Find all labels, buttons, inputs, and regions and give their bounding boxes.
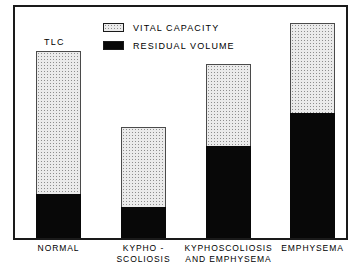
bar-segment-vital-capacity bbox=[206, 64, 251, 146]
category-label-line-1: EMPHYSEMA bbox=[281, 243, 343, 253]
category-label-line-1: KYPHO - bbox=[123, 243, 164, 253]
category-label-line-1: NORMAL bbox=[38, 243, 80, 253]
bar-2 bbox=[121, 127, 166, 238]
category-label-line-2: AND EMPHYSEMA bbox=[169, 254, 289, 265]
lung-volume-bar-chart: VITAL CAPACITY RESIDUAL VOLUME TLC NORMA… bbox=[0, 0, 359, 269]
bar-4 bbox=[290, 23, 335, 238]
category-label-4: EMPHYSEMA bbox=[253, 243, 359, 254]
bars-layer bbox=[15, 7, 346, 238]
bar-3 bbox=[206, 64, 251, 238]
bar-segment-vital-capacity bbox=[36, 51, 81, 194]
bar-segment-vital-capacity bbox=[290, 23, 335, 113]
plot-frame: VITAL CAPACITY RESIDUAL VOLUME TLC bbox=[13, 5, 348, 240]
bar-1 bbox=[36, 51, 81, 238]
bar-segment-residual-volume bbox=[36, 194, 81, 238]
bar-segment-vital-capacity bbox=[121, 127, 166, 207]
bar-segment-residual-volume bbox=[121, 207, 166, 238]
bar-segment-residual-volume bbox=[290, 113, 335, 238]
bar-segment-residual-volume bbox=[206, 146, 251, 238]
